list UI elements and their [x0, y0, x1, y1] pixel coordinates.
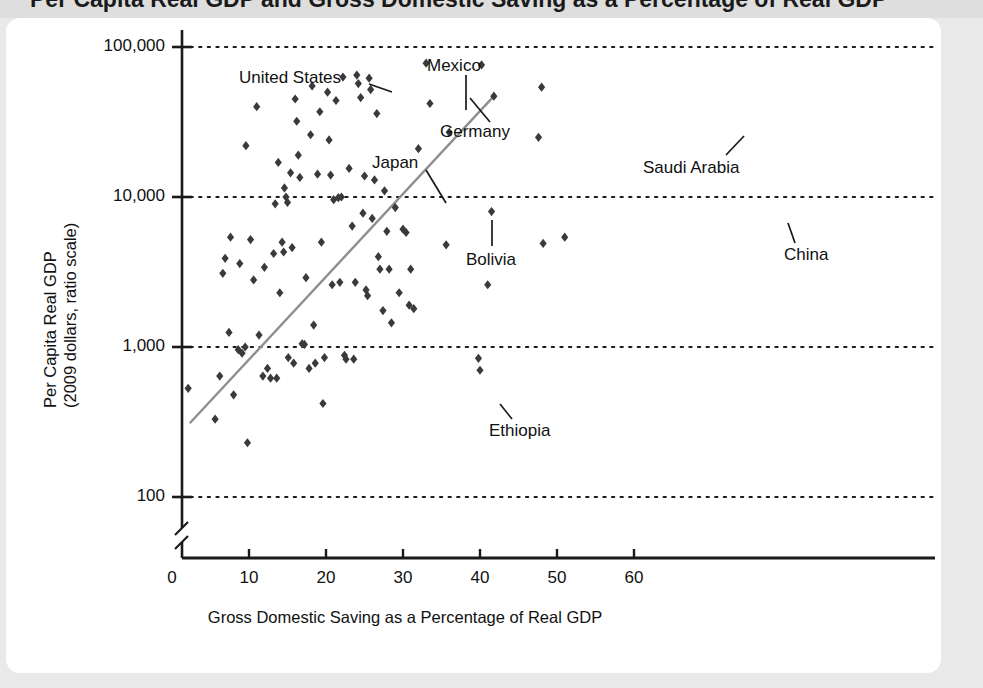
data-point [253, 102, 260, 111]
data-point [355, 79, 362, 88]
x-tick-label-60: 60 [604, 568, 664, 588]
leader-line-japan [426, 170, 446, 203]
y-tick-label-10000: 10,000 [60, 186, 165, 206]
annotation-united-states: United States [239, 68, 341, 88]
regression-line [190, 96, 494, 423]
data-point [310, 320, 317, 329]
data-point [357, 93, 364, 102]
data-point [443, 240, 450, 249]
trend-line [190, 96, 494, 423]
leader-line-ethiopia [500, 404, 512, 419]
data-point [212, 415, 219, 424]
data-point [287, 168, 294, 177]
data-point [312, 359, 319, 368]
data-point [236, 259, 243, 268]
data-point [293, 117, 300, 126]
data-point [535, 133, 542, 142]
data-point [270, 249, 277, 258]
data-point [359, 209, 366, 218]
x-tick-label-10: 10 [219, 568, 279, 588]
x-tick-label-0: 0 [142, 568, 202, 588]
data-point [244, 438, 251, 447]
x-tick-label-30: 30 [373, 568, 433, 588]
data-point [289, 243, 296, 252]
data-point [386, 265, 393, 274]
data-point [272, 199, 279, 208]
annotation-china: China [784, 245, 828, 265]
data-point [255, 331, 262, 340]
x-tick-label-40: 40 [450, 568, 510, 588]
data-point [305, 364, 312, 373]
data-point [371, 175, 378, 184]
data-point [295, 151, 302, 160]
data-point [538, 83, 545, 92]
annotation-saudi-arabia: Saudi Arabia [643, 158, 739, 178]
y-tick-label-100: 100 [60, 486, 165, 506]
data-point [285, 353, 292, 362]
data-point [407, 265, 414, 274]
data-point [250, 275, 257, 284]
data-point [396, 288, 403, 297]
data-point [366, 74, 373, 83]
data-point [375, 252, 382, 261]
data-point [225, 328, 232, 337]
annotation-mexico: Mexico [427, 56, 481, 76]
data-point [185, 384, 192, 393]
data-point [307, 130, 314, 139]
y-tick-label-1000: 1,000 [60, 336, 165, 356]
data-point [216, 371, 223, 380]
data-point [324, 88, 331, 97]
data-point [388, 318, 395, 327]
data-point [292, 94, 299, 103]
data-point [316, 107, 323, 116]
data-point [302, 273, 309, 282]
axis-lines [175, 30, 935, 558]
data-point [227, 233, 234, 242]
chart-page: Per Capita Real GDP and Gross Domestic S… [0, 0, 983, 688]
leader-line-saudi-arabia [726, 136, 744, 155]
data-point [329, 280, 336, 289]
leader-line-china [788, 223, 795, 243]
annotation-leader-lines [369, 75, 795, 419]
annotation-japan: Japan [372, 153, 418, 173]
data-point [219, 269, 226, 278]
data-point [352, 278, 359, 287]
data-point [276, 288, 283, 297]
data-point [267, 374, 274, 383]
data-point [367, 85, 374, 94]
annotation-germany: Germany [440, 122, 510, 142]
data-point [373, 109, 380, 118]
data-point [327, 170, 334, 179]
data-point [381, 186, 388, 195]
y-tick-label-100000: 100,000 [60, 36, 165, 56]
data-point [279, 238, 286, 247]
data-point [222, 254, 229, 263]
data-point [540, 239, 547, 248]
data-point [259, 371, 266, 380]
data-point [350, 355, 357, 364]
data-point [336, 278, 343, 287]
data-point [346, 164, 353, 173]
x-tick-label-50: 50 [527, 568, 587, 588]
data-point [561, 233, 568, 242]
data-point [290, 359, 297, 368]
data-point [332, 96, 339, 105]
data-point [484, 280, 491, 289]
annotation-ethiopia: Ethiopia [489, 421, 550, 441]
annotation-bolivia: Bolivia [466, 250, 516, 270]
data-point [314, 170, 321, 179]
data-point [369, 214, 376, 223]
data-point [319, 399, 326, 408]
data-point [281, 183, 288, 192]
data-point [426, 99, 433, 108]
data-point [230, 390, 237, 399]
data-point [296, 173, 303, 182]
data-point [415, 144, 422, 153]
data-point [264, 364, 271, 373]
data-point [273, 374, 280, 383]
data-point [280, 247, 287, 256]
data-point [476, 366, 483, 375]
data-point [488, 207, 495, 216]
data-point [247, 235, 254, 244]
x-tick-label-20: 20 [296, 568, 356, 588]
